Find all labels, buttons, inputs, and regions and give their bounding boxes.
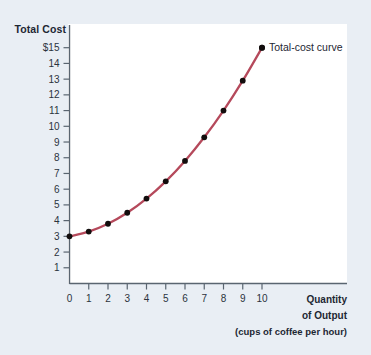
y-axis-tick-label: 4 bbox=[54, 215, 60, 226]
x-axis-tick-label: 8 bbox=[221, 293, 227, 304]
x-axis-tick-label: 3 bbox=[124, 293, 130, 304]
data-point-marker bbox=[124, 210, 130, 216]
y-axis-tick-label: 9 bbox=[54, 137, 60, 148]
y-axis-tick-label: 5 bbox=[54, 199, 60, 210]
x-axis-tick-label: 9 bbox=[240, 293, 246, 304]
x-axis-tick-label: 2 bbox=[105, 293, 111, 304]
y-axis-tick-group: 1234567891011121314$15 bbox=[43, 42, 70, 273]
data-point-marker bbox=[240, 78, 246, 84]
x-axis-tick-label: 7 bbox=[201, 293, 207, 304]
data-point-marker bbox=[144, 196, 150, 202]
x-axis-tick-label: 6 bbox=[182, 293, 188, 304]
data-point-marker bbox=[182, 158, 188, 164]
y-axis-title: Total Cost bbox=[14, 23, 66, 35]
y-axis-tick-label: 12 bbox=[48, 89, 60, 100]
x-axis-tick-label: 5 bbox=[163, 293, 169, 304]
data-point-marker bbox=[86, 229, 92, 235]
y-axis-tick-label: 1 bbox=[54, 262, 60, 273]
x-axis-tick-label: 10 bbox=[256, 293, 268, 304]
y-axis-tick-label: 3 bbox=[54, 231, 60, 242]
data-point-marker bbox=[201, 134, 207, 140]
data-point-marker bbox=[163, 178, 169, 184]
total-cost-curve-line bbox=[70, 48, 263, 237]
y-axis-tick-label: 13 bbox=[48, 74, 60, 85]
x-axis-tick-label: 1 bbox=[86, 293, 92, 304]
x-axis-title-line1: Quantity bbox=[306, 294, 347, 305]
y-axis-tick-label: 8 bbox=[54, 152, 60, 163]
total-cost-curve-figure: 1234567891011121314$15 012345678910 Tota… bbox=[0, 0, 371, 355]
y-axis-tick-label: 6 bbox=[54, 184, 60, 195]
x-axis-tick-label: 0 bbox=[67, 293, 73, 304]
x-axis-tick-group: 012345678910 bbox=[67, 284, 268, 304]
y-axis-tick-label: 11 bbox=[49, 105, 60, 116]
y-axis-tick-label: $15 bbox=[43, 42, 60, 53]
y-axis-tick-label: 14 bbox=[48, 58, 60, 69]
data-point-marker bbox=[105, 221, 111, 227]
y-axis-tick-label: 2 bbox=[54, 247, 60, 258]
data-point-marker bbox=[221, 108, 227, 114]
x-axis-title-line3: (cups of coffee per hour) bbox=[235, 326, 347, 337]
x-axis-title-line2: of Output bbox=[302, 310, 348, 321]
curve-annotation-marker bbox=[259, 45, 265, 51]
y-axis-tick-label: 7 bbox=[54, 168, 60, 179]
curve-annotation-label: Total-cost curve bbox=[269, 41, 343, 53]
y-axis-tick-label: 10 bbox=[48, 121, 60, 132]
total-cost-chart: 1234567891011121314$15 012345678910 Tota… bbox=[0, 0, 371, 355]
x-axis-tick-label: 4 bbox=[144, 293, 150, 304]
data-point-markers bbox=[67, 45, 265, 239]
data-point-marker bbox=[67, 233, 73, 239]
